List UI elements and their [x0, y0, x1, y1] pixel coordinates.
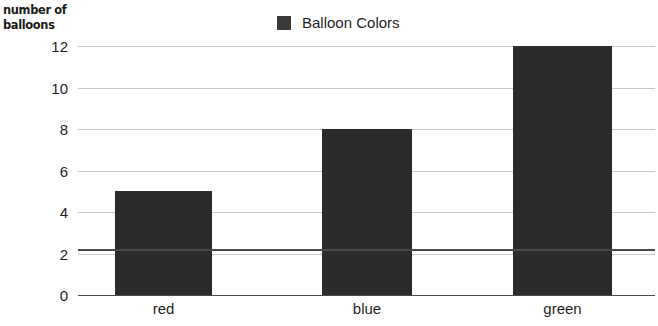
y-tick-label-6: 6 — [8, 162, 68, 179]
y-axis-title-line-1: number of — [3, 2, 87, 17]
y-tick-label-2: 2 — [8, 245, 68, 262]
legend-label-balloon-colors: Balloon Colors — [302, 14, 400, 31]
x-tick-label-green: green — [543, 300, 581, 317]
legend: Balloon Colors — [277, 14, 400, 31]
y-tick-label-8: 8 — [8, 121, 68, 138]
bar-green — [513, 46, 612, 295]
y-tick-label-0: 0 — [8, 287, 68, 304]
y-tick-label-12: 12 — [8, 38, 68, 55]
y-tick-label-4: 4 — [8, 204, 68, 221]
bar-chart: number of balloons Balloon Colors 121086… — [0, 0, 658, 326]
x-tick-label-red: red — [153, 300, 175, 317]
x-axis-labels: redbluegreen — [78, 300, 655, 324]
x-axis-line — [78, 249, 655, 251]
y-axis-ticks: 121086420 — [0, 46, 68, 295]
x-tick-label-blue: blue — [353, 300, 381, 317]
legend-swatch-balloon-colors — [277, 16, 291, 30]
y-tick-label-10: 10 — [8, 79, 68, 96]
bar-blue — [322, 129, 412, 295]
y-axis-title-line-2: balloons — [3, 17, 87, 32]
gridline-0 — [78, 295, 655, 296]
plot-area — [78, 46, 655, 295]
bar-red — [115, 191, 212, 295]
y-axis-title: number of balloons — [3, 2, 87, 32]
